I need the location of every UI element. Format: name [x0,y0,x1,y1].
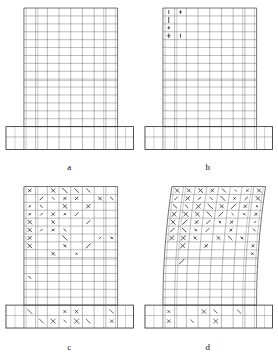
panel-a-label: a [0,162,139,172]
panel-c-diagram [0,178,139,355]
panel-c: c [0,178,139,355]
panel-a-diagram [0,0,139,178]
panel-d-label: d [139,342,278,352]
panel-b-label: b [139,162,278,172]
panel-a: a [0,0,139,178]
panel-d-diagram [139,178,278,355]
crack-pattern-figure: a b c d [0,0,277,355]
panel-c-label: c [0,342,139,352]
panel-b-diagram [139,0,278,178]
panel-d: d [139,178,278,355]
panel-b: b [139,0,278,178]
